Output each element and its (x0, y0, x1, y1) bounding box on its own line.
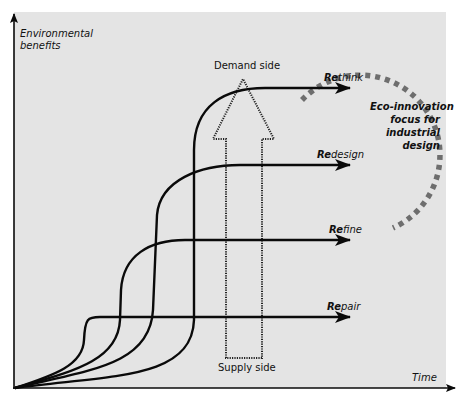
stage-rest: fine (343, 224, 362, 235)
refine-curve (15, 240, 350, 388)
focus-line1: Eco-innovation (370, 100, 440, 113)
stage-rest: pair (341, 301, 360, 312)
figure-caption-illegible (14, 394, 444, 404)
redesign-curve (15, 165, 350, 388)
stage-prefix: Re (329, 224, 343, 235)
y-axis-label-line1: Environmental (20, 28, 93, 40)
focus-line3: industrial (370, 126, 440, 139)
stage-label-rethink: Rethink (324, 72, 363, 83)
y-axis-label-line2: benefits (20, 40, 93, 52)
stage-prefix: Re (327, 301, 341, 312)
supply-side-label: Supply side (218, 362, 276, 373)
stage-rest: think (338, 72, 363, 83)
rethink-curve (15, 88, 350, 388)
demand-side-label: Demand side (214, 60, 280, 71)
stage-prefix: Re (317, 149, 331, 160)
focus-line2: focus for (370, 113, 440, 126)
x-axis-label: Time (412, 372, 437, 384)
stage-rest: design (331, 149, 364, 160)
stage-prefix: Re (324, 72, 338, 83)
stage-label-repair: Repair (327, 301, 360, 312)
stage-label-refine: Refine (329, 224, 362, 235)
y-axis-label: Environmental benefits (20, 28, 93, 52)
eco-innovation-focus-label: Eco-innovation focus for industrial desi… (370, 100, 440, 152)
focus-line4: design (370, 139, 440, 152)
stage-label-redesign: Redesign (317, 149, 364, 160)
